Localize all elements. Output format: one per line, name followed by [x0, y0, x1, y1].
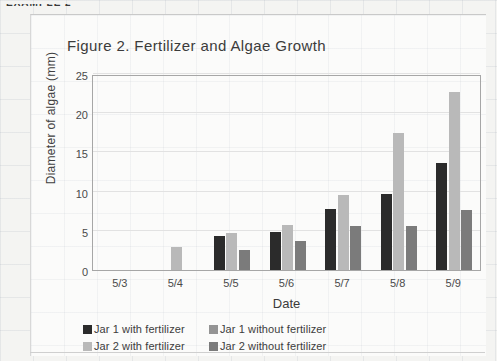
x-tick-label: 5/8 — [368, 277, 428, 289]
chart-title: Figure 2. Fertilizer and Algae Growth — [67, 37, 326, 54]
legend-row: Jar 2 with fertilizerJar 2 without ferti… — [83, 340, 413, 352]
bar — [406, 226, 417, 270]
y-axis-label: Diameter of algae (mm) — [44, 0, 58, 328]
legend-row: Jar 1 with fertilizerJar 1 without ferti… — [83, 323, 413, 335]
bottom-rule — [30, 352, 485, 353]
y-tick-label: 20 — [62, 109, 88, 121]
legend-swatch — [209, 325, 218, 334]
x-tick-label: 5/5 — [201, 277, 261, 289]
bar — [350, 226, 361, 270]
bar — [171, 247, 182, 270]
bar — [338, 195, 349, 270]
bar — [270, 232, 281, 270]
x-tick-label: 5/9 — [423, 277, 483, 289]
gridline — [93, 191, 480, 192]
legend-swatch — [83, 342, 92, 351]
bar — [381, 194, 392, 270]
legend-item: Jar 1 without fertilizer — [209, 323, 326, 335]
legend-label: Jar 1 without fertilizer — [220, 323, 326, 335]
bar — [461, 210, 472, 270]
bar — [214, 236, 225, 270]
bar — [226, 233, 237, 270]
x-axis-label: Date — [92, 296, 481, 311]
bar — [239, 250, 250, 270]
legend-label: Jar 1 with fertilizer — [94, 323, 185, 335]
y-tick-label: 15 — [62, 148, 88, 160]
bar — [436, 163, 447, 270]
legend-item: Jar 2 with fertilizer — [83, 340, 209, 352]
legend-item: Jar 2 without fertilizer — [209, 340, 326, 352]
bar — [282, 225, 293, 270]
plot-area — [92, 75, 481, 271]
gridline — [93, 73, 480, 74]
y-tick-label: 25 — [62, 70, 88, 82]
bar — [295, 241, 306, 270]
y-tick-label: 10 — [62, 188, 88, 200]
gridline — [93, 112, 480, 113]
legend-swatch — [209, 342, 218, 351]
x-axis-ticks: 5/35/45/55/65/75/85/9 — [92, 277, 481, 293]
bar — [449, 92, 460, 270]
legend-label: Jar 2 without fertilizer — [220, 340, 326, 352]
x-tick-label: 5/6 — [257, 277, 317, 289]
gridline — [93, 151, 480, 152]
legend-label: Jar 2 with fertilizer — [94, 340, 185, 352]
y-tick-label: 5 — [62, 227, 88, 239]
x-tick-label: 5/7 — [312, 277, 372, 289]
x-tick-label: 5/4 — [145, 277, 205, 289]
x-tick-label: 5/3 — [90, 277, 150, 289]
legend-item: Jar 1 with fertilizer — [83, 323, 209, 335]
bar — [325, 209, 336, 270]
y-axis-ticks: 0510152025 — [58, 75, 88, 271]
bar — [393, 133, 404, 270]
legend-swatch — [83, 325, 92, 334]
y-tick-label: 0 — [62, 266, 88, 278]
figure-card: Figure 2. Fertilizer and Algae Growth Di… — [30, 14, 486, 356]
